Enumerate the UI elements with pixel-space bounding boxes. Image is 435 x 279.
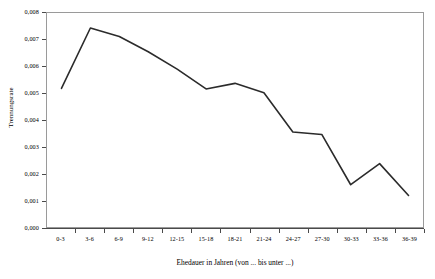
y-tick-label: 0,004 xyxy=(0,117,39,123)
chart-page: Trennungsrate 0,0000,0010,0020,0030,0040… xyxy=(0,0,435,279)
x-tick xyxy=(424,229,425,233)
x-tick xyxy=(250,229,251,233)
y-tick-label: 0,000 xyxy=(0,225,39,231)
y-tick-label: 0,002 xyxy=(0,171,39,177)
y-tick-label: 0,005 xyxy=(0,90,39,96)
x-tick xyxy=(191,229,192,233)
y-axis-title: Trennungsrate xyxy=(8,63,15,153)
x-tick xyxy=(162,229,163,233)
x-tick-label: 36-39 xyxy=(389,236,429,242)
x-tick xyxy=(337,229,338,233)
separation-rate-line xyxy=(61,28,408,195)
x-axis-title: Ehedauer in Jahren (von ... bis unter ..… xyxy=(46,259,424,267)
plot-area xyxy=(46,12,424,228)
y-tick-label: 0,001 xyxy=(0,198,39,204)
x-tick xyxy=(104,229,105,233)
x-tick xyxy=(133,229,134,233)
y-tick-label: 0,006 xyxy=(0,63,39,69)
x-axis-line xyxy=(46,228,424,229)
x-tick xyxy=(366,229,367,233)
x-tick xyxy=(220,229,221,233)
y-tick-label: 0,003 xyxy=(0,144,39,150)
x-tick xyxy=(395,229,396,233)
line-series-svg xyxy=(47,13,423,227)
x-tick xyxy=(279,229,280,233)
x-tick xyxy=(308,229,309,233)
x-tick xyxy=(75,229,76,233)
y-tick-label: 0,008 xyxy=(0,9,39,15)
y-tick-label: 0,007 xyxy=(0,36,39,42)
